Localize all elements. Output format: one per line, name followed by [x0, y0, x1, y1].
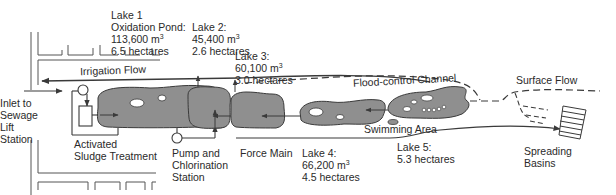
swimming-area-label: Swimming Area [364, 123, 437, 135]
lake-3-label: Lake 3: 60,100 m3 3.0 hectares [235, 50, 293, 86]
lake-4-label: Lake 4: 66,200 m3 4.5 hectares [302, 147, 360, 183]
force-main-label: Force Main [240, 147, 293, 159]
lake-5-label: Lake 5: 5.3 hectares [397, 141, 455, 165]
channel-outlet [470, 90, 600, 101]
inlet-label: Inlet to Sewage Lift Station [0, 97, 38, 145]
irrigation-flow-label: Irrigation Flow [80, 63, 146, 77]
spreading-basins-label: Spreading Basins [524, 145, 572, 169]
surface-flow-label: Surface Flow [516, 74, 577, 86]
spreading-basins [559, 106, 586, 139]
activated-sludge-label: Activated Sludge Treatment [74, 138, 157, 162]
lake-2-shape [188, 87, 230, 129]
lake-5-shape [388, 87, 469, 119]
lake-3-shape [231, 92, 285, 128]
lake-1-label: Lake 1 Oxidation Pond: 113,600 m3 6.5 he… [111, 9, 186, 57]
pump-station-label: Pump and Chlorination Station [172, 147, 228, 183]
